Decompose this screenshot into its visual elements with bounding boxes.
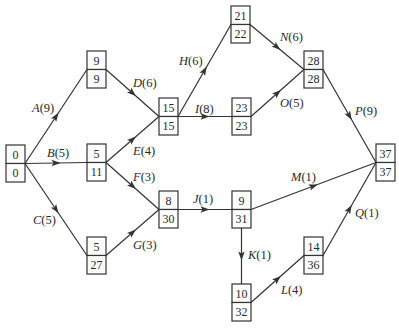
event-node: 931 <box>232 191 251 228</box>
event-node: 00 <box>6 145 25 182</box>
activity-duration: (6) <box>188 54 203 68</box>
activity-letter: G <box>133 238 142 252</box>
edge-label-f: F(3) <box>132 170 155 184</box>
arrow-icon <box>344 111 351 120</box>
earliest-time: 37 <box>380 147 392 161</box>
earliest-time: 15 <box>163 101 175 115</box>
latest-time: 11 <box>91 165 103 179</box>
activity-duration: (5) <box>289 96 304 110</box>
edge-label-j: J(1) <box>193 192 213 206</box>
earliest-time: 14 <box>308 240 320 254</box>
activity-duration: (1) <box>364 206 379 220</box>
event-node: 2122 <box>231 6 250 43</box>
earliest-time: 21 <box>235 9 247 23</box>
activity-duration: (5) <box>55 146 70 160</box>
latest-time: 37 <box>380 165 392 179</box>
latest-time: 36 <box>308 258 320 272</box>
earliest-time: 9 <box>94 54 100 68</box>
project-network-diagram: 0099511527151583021222323931103228281436… <box>0 0 399 329</box>
event-node: 1436 <box>304 237 323 274</box>
latest-time: 31 <box>236 212 248 226</box>
latest-time: 23 <box>236 119 248 133</box>
earliest-time: 23 <box>236 101 248 115</box>
edge-c <box>25 164 87 256</box>
arrow-icon <box>199 67 206 76</box>
event-node: 830 <box>159 191 178 228</box>
edge-label-d: D(6) <box>132 76 157 90</box>
event-node: 3737 <box>376 144 395 181</box>
earliest-time: 9 <box>239 194 245 208</box>
activity-letter: Q <box>355 206 364 220</box>
event-node: 1515 <box>159 98 178 135</box>
edge-label-g: G(3) <box>133 238 157 252</box>
edge-j <box>178 206 232 212</box>
earliest-time: 10 <box>236 287 248 301</box>
latest-time: 9 <box>94 72 100 86</box>
activity-letter: M <box>290 170 302 184</box>
latest-time: 0 <box>13 166 19 180</box>
activity-letter: L <box>280 283 288 297</box>
edge-label-c: C(5) <box>33 213 56 227</box>
earliest-time: 5 <box>94 240 100 254</box>
activity-duration: (6) <box>288 30 303 44</box>
activity-duration: (3) <box>141 170 156 184</box>
event-node: 511 <box>87 144 106 181</box>
event-node: 2828 <box>304 51 323 88</box>
event-node: 527 <box>87 237 106 274</box>
edge-b <box>25 160 87 166</box>
activity-letter: D <box>132 76 142 90</box>
edge-label-o: O(5) <box>280 96 304 110</box>
event-node: 1032 <box>232 284 251 321</box>
activity-duration: (8) <box>199 102 214 116</box>
activity-duration: (1) <box>256 248 271 262</box>
activity-duration: (5) <box>41 213 56 227</box>
activity-letter: A <box>31 101 40 115</box>
activity-duration: (1) <box>301 170 316 184</box>
edge-label-e: E(4) <box>132 144 155 158</box>
activity-duration: (6) <box>142 76 157 90</box>
edge-label-h: H(6) <box>178 54 203 68</box>
arrow-icon <box>344 205 351 214</box>
arrow-icon <box>51 204 59 213</box>
event-node: 2323 <box>232 98 251 135</box>
earliest-time: 8 <box>166 194 172 208</box>
event-node: 99 <box>87 51 106 88</box>
latest-time: 27 <box>91 258 103 272</box>
edge-label-p: P(9) <box>354 104 377 118</box>
edge-label-n: N(6) <box>279 30 303 44</box>
earliest-time: 28 <box>308 54 320 68</box>
activity-duration: (4) <box>288 283 303 297</box>
edge-label-m: M(1) <box>290 170 316 184</box>
edge-label-l: L(4) <box>280 283 303 297</box>
activity-duration: (1) <box>199 192 214 206</box>
activity-duration: (9) <box>40 101 55 115</box>
edge-label-b: B(5) <box>47 146 69 160</box>
edge-label-a: A(9) <box>31 101 54 115</box>
edge-label-k: K(1) <box>247 248 271 262</box>
edge-label-i: I(8) <box>194 102 214 116</box>
activity-letter: F <box>132 170 141 184</box>
earliest-time: 0 <box>13 148 19 162</box>
activity-duration: (4) <box>141 144 156 158</box>
earliest-time: 5 <box>94 147 100 161</box>
activity-letter: E <box>132 144 141 158</box>
activity-duration: (9) <box>363 104 378 118</box>
activity-letter: P <box>354 104 363 118</box>
latest-time: 30 <box>163 212 175 226</box>
edge-k <box>238 228 244 284</box>
latest-time: 32 <box>236 305 248 319</box>
edge-label-q: Q(1) <box>355 206 379 220</box>
latest-time: 22 <box>235 27 247 41</box>
activity-letter: O <box>280 96 289 110</box>
latest-time: 28 <box>308 72 320 86</box>
latest-time: 15 <box>163 119 175 133</box>
activity-duration: (3) <box>142 238 157 252</box>
